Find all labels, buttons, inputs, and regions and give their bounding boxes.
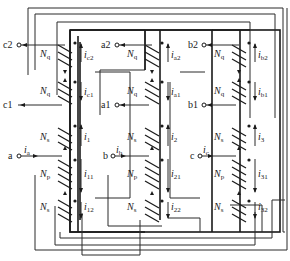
current-label-ic: ic [203, 144, 209, 157]
svg-text:Np: Np [213, 168, 225, 181]
polarity-dot [73, 124, 76, 127]
svg-text:i3: i3 [258, 131, 265, 144]
terminal-label-a: a [8, 150, 13, 161]
transformer-winding-diagram: c2 c1 a ia Nq Nq Ns Np Ns ic2 ic1 i1 i11… [0, 0, 290, 261]
terminal-label-c1: c1 [3, 99, 12, 110]
turns-label-ns: Ns [39, 201, 50, 214]
svg-text:i32: i32 [258, 201, 268, 214]
svg-text:Np: Np [126, 168, 138, 181]
turns-label-nq: Nq [39, 85, 51, 98]
svg-text:Nq: Nq [126, 48, 138, 61]
svg-text:Nq: Nq [213, 85, 225, 98]
terminal-label-a1: a1 [101, 99, 110, 110]
polarity-dot [73, 199, 76, 202]
svg-text:Nq: Nq [126, 85, 138, 98]
svg-text:i31: i31 [258, 168, 268, 181]
current-label-i12: i12 [84, 201, 94, 214]
current-label-ic1: ic1 [84, 86, 94, 99]
terminal-a1[interactable] [115, 103, 119, 107]
terminal-label-b: b [103, 150, 108, 161]
terminal-label-c2: c2 [3, 39, 12, 50]
polarity-dot [73, 158, 76, 161]
terminal-a[interactable] [17, 154, 21, 158]
polarity-dot [73, 41, 76, 44]
svg-text:i22: i22 [171, 201, 181, 214]
svg-text:Ns: Ns [213, 131, 224, 144]
svg-text:ib1: ib1 [258, 86, 268, 99]
svg-text:ia1: ia1 [171, 86, 181, 99]
svg-text:Ns: Ns [213, 201, 224, 214]
terminal-c[interactable] [198, 154, 202, 158]
polarity-dot [73, 80, 76, 83]
terminal-b1[interactable] [202, 103, 206, 107]
current-label-i1: i1 [84, 131, 91, 144]
terminal-label-b1: b1 [188, 99, 198, 110]
svg-text:ia2: ia2 [171, 49, 181, 62]
terminal-b[interactable] [111, 154, 115, 158]
interconnect-wiring [28, 8, 287, 255]
svg-text:i21: i21 [171, 168, 181, 181]
svg-text:Ns: Ns [126, 201, 137, 214]
current-label-ic2: ic2 [84, 49, 94, 62]
terminal-c2[interactable] [17, 43, 21, 47]
svg-text:ib2: ib2 [258, 49, 268, 62]
terminal-label-c: c [190, 150, 195, 161]
current-label-ib: ib [116, 144, 123, 157]
terminal-label-a2: a2 [101, 39, 110, 50]
limb-b: Nq Nq Ns Np Ns ia2 ia1 i2 i21 i22 [126, 41, 181, 222]
svg-text:Nq: Nq [213, 48, 225, 61]
turns-label-nq: Nq [39, 48, 51, 61]
terminal-b2[interactable] [202, 43, 206, 47]
turns-label-ns: Ns [39, 131, 50, 144]
current-label-i11: i11 [84, 168, 94, 181]
terminal-label-b2: b2 [188, 39, 198, 50]
terminal-a2[interactable] [115, 43, 119, 47]
current-label-ia: ia [24, 144, 31, 157]
turns-label-np: Np [39, 168, 51, 181]
svg-text:Ns: Ns [126, 131, 137, 144]
svg-text:i2: i2 [171, 131, 178, 144]
